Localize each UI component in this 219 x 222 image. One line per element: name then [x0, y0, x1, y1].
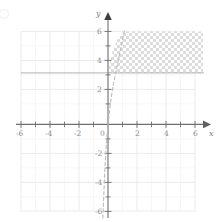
- x-tick-label-6: 6: [193, 130, 198, 138]
- x-tick-label-2: 2: [135, 130, 140, 138]
- x-tick-label-neg6: -6: [16, 130, 23, 138]
- y-tick-label-2: 2: [97, 86, 102, 94]
- origin-label: 0: [100, 130, 105, 138]
- graph-canvas: [0, 0, 219, 222]
- x-tick-label-neg2: -2: [74, 130, 81, 138]
- coordinate-plane-figure: -6 -4 -2 2 4 6 0 6 4 2 -2 -4 -6 x y: [0, 0, 219, 222]
- y-tick-label-neg6: -6: [95, 208, 102, 216]
- y-tick-label-6: 6: [97, 28, 102, 36]
- y-axis: [104, 12, 112, 218]
- y-tick-label-neg4: -4: [95, 179, 102, 187]
- y-tick-label-4: 4: [97, 57, 102, 65]
- y-axis-label: y: [96, 10, 101, 18]
- x-axis: [16, 121, 211, 129]
- x-tick-label-neg4: -4: [45, 130, 52, 138]
- y-tick-label-neg2: -2: [95, 150, 102, 158]
- corner-artifact: [0, 10, 9, 19]
- x-axis-label: x: [209, 130, 214, 138]
- x-tick-label-4: 4: [164, 130, 169, 138]
